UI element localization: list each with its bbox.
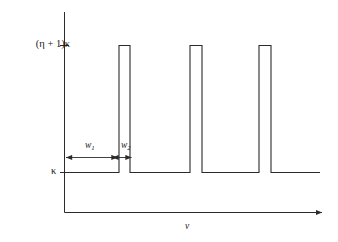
x-axis-label: v: [185, 222, 189, 232]
y-axis-top-tick-text: (η + 1)κ: [36, 38, 70, 49]
w2-dimension-label: w2: [121, 141, 131, 152]
w1-subscript: 1: [91, 144, 94, 151]
y-axis-baseline-tick-text: κ: [51, 165, 56, 176]
pulse-train-curve: [65, 46, 321, 173]
pulse-train-plot: [0, 0, 338, 242]
axes-group: [60, 12, 322, 213]
x-axis-label-text: v: [185, 221, 189, 231]
dimension-arrows: [65, 151, 132, 164]
figure-container: (η + 1)κ κ v w1 w2: [0, 0, 338, 242]
y-axis-top-tick-label: (η + 1)κ: [36, 39, 70, 50]
y-axis-baseline-tick-label: κ: [51, 166, 56, 177]
w2-subscript: 2: [127, 144, 130, 151]
w1-dimension-label: w1: [85, 141, 95, 152]
